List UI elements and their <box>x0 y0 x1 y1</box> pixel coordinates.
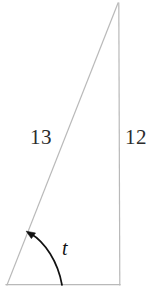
angle-arc <box>31 234 63 286</box>
angle-label: t <box>62 238 68 258</box>
hypotenuse-label: 13 <box>30 127 52 148</box>
triangle-figure: 13 12 t <box>0 0 158 293</box>
angle-arrowhead-icon <box>26 231 35 238</box>
opposite-side-label: 12 <box>125 127 147 148</box>
vertical-leg-line <box>119 3 120 285</box>
